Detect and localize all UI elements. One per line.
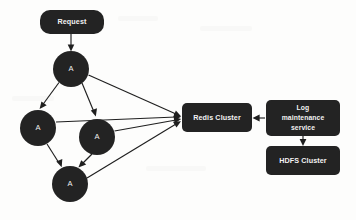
edge-a1-to-a2 xyxy=(40,83,59,110)
edge-a1-to-redis xyxy=(89,75,182,117)
node-app-a-4-label: A xyxy=(67,179,72,188)
node-log-maintenance-service-label-line-3: service xyxy=(291,124,315,131)
node-log-maintenance-service[interactable]: Log maintenance service xyxy=(266,100,340,136)
node-request[interactable]: Request xyxy=(40,10,104,34)
edge-a3-to-a4 xyxy=(78,154,92,168)
architecture-diagram: Request A A A A Redis Cluster Log mainte… xyxy=(0,0,356,220)
node-redis-cluster-label: Redis Cluster xyxy=(193,113,241,122)
edge-logsvc-to-redis xyxy=(253,115,266,122)
node-log-maintenance-service-label-line-1: Log xyxy=(297,104,310,112)
node-redis-cluster[interactable]: Redis Cluster xyxy=(182,103,252,132)
edge-a2-to-a4 xyxy=(47,144,62,167)
node-app-a-2-label: A xyxy=(35,123,40,132)
edge-a2-to-redis xyxy=(56,114,181,123)
node-hdfs-cluster[interactable]: HDFS Cluster xyxy=(266,146,340,175)
edge-request-to-a1 xyxy=(68,34,75,52)
node-app-a-1[interactable]: A xyxy=(53,51,89,87)
node-hdfs-cluster-label: HDFS Cluster xyxy=(279,156,327,165)
edge-a1-to-a3 xyxy=(82,83,97,116)
node-app-a-1-label: A xyxy=(68,64,73,73)
node-log-maintenance-service-label-line-2: maintenance xyxy=(282,114,325,121)
node-app-a-3[interactable]: A xyxy=(79,119,115,155)
node-request-label: Request xyxy=(57,17,87,26)
diagram-canvas: Request A A A A Redis Cluster Log mainte… xyxy=(0,0,356,220)
node-app-a-4[interactable]: A xyxy=(52,166,88,202)
edge-logsvc-to-hdfs xyxy=(300,136,307,146)
node-app-a-2[interactable]: A xyxy=(20,110,56,146)
node-app-a-3-label: A xyxy=(94,132,99,141)
